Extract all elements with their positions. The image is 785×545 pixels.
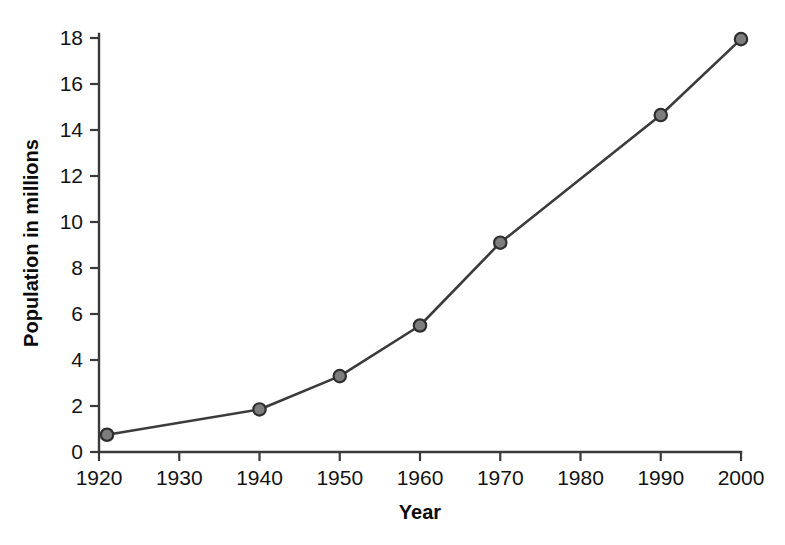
y-axis-title: Population in millions: [20, 139, 42, 347]
data-point-marker: [101, 429, 113, 441]
data-point-marker: [735, 33, 747, 45]
line-chart: 024681012141618 192019301940195019601970…: [0, 0, 785, 545]
y-tick-label: 6: [71, 302, 83, 325]
x-tick-label: 1950: [316, 466, 363, 489]
x-tick-label: 2000: [718, 466, 765, 489]
x-axis-title: Year: [399, 501, 441, 523]
y-tick-label: 12: [60, 164, 83, 187]
x-tick-label: 1940: [236, 466, 283, 489]
chart-background: [0, 0, 785, 545]
y-tick-label: 4: [71, 348, 83, 371]
x-tick-label: 1970: [477, 466, 524, 489]
x-tick-label: 1920: [76, 466, 123, 489]
data-point-marker: [414, 319, 426, 331]
y-tick-label: 16: [60, 72, 83, 95]
data-point-marker: [253, 403, 265, 415]
x-tick-label: 1960: [397, 466, 444, 489]
y-tick-label: 10: [60, 210, 83, 233]
data-point-marker: [334, 370, 346, 382]
y-tick-label: 0: [71, 440, 83, 463]
y-tick-label: 18: [60, 26, 83, 49]
x-axis-tick-labels: 192019301940195019601970198019902000: [76, 466, 765, 489]
y-tick-label: 2: [71, 394, 83, 417]
y-tick-label: 8: [71, 256, 83, 279]
chart-container: 024681012141618 192019301940195019601970…: [0, 0, 785, 545]
data-point-marker: [494, 237, 506, 249]
x-tick-label: 1980: [557, 466, 604, 489]
y-tick-label: 14: [60, 118, 84, 141]
x-tick-label: 1930: [156, 466, 203, 489]
x-tick-label: 1990: [637, 466, 684, 489]
data-point-marker: [655, 109, 667, 121]
